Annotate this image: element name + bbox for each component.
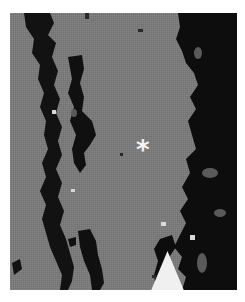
micrograph-image: * xyxy=(10,13,237,290)
asterisk-annotation: * xyxy=(136,137,150,163)
tissue-texture xyxy=(10,13,237,290)
up-arrow-icon xyxy=(54,251,237,290)
